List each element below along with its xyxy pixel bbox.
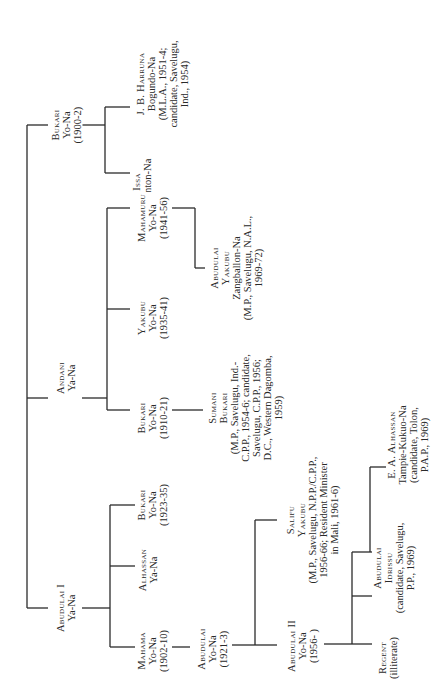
note-line: P.A.P., 1969) xyxy=(419,405,430,484)
genealogy-diagram: Bukari Yo-Na (1900-2) Issa Nanton-Na J. … xyxy=(0,0,436,700)
title: Yo-Na xyxy=(297,620,308,672)
note-line: (M.P., Savelugu, N.P.P./C.P.P., xyxy=(307,457,318,584)
title: Ya-Na xyxy=(66,362,77,394)
note-line: P.P., 1969) xyxy=(405,523,416,614)
person-name: Salifu xyxy=(285,457,296,584)
note-line: Ind., 1954) xyxy=(179,40,190,127)
person-surname: Yakubu xyxy=(296,457,307,584)
title: Yo-Na xyxy=(147,297,158,339)
note-line: (M.P., Savelugu, N.A.L., xyxy=(242,216,253,320)
person-name: Abudulai II xyxy=(286,620,297,672)
title: Yo-Na xyxy=(147,630,158,672)
reign-years: (1910-21) xyxy=(158,397,169,439)
person-name: J. B. Harruna xyxy=(135,40,146,127)
note-line: 1956-66; Resident Minister xyxy=(318,457,329,584)
person-name: Abudulai I xyxy=(55,584,66,632)
person-name: Bukari xyxy=(136,484,147,526)
title: Ya-Na xyxy=(66,584,77,632)
note-line: D.C., Western Dagomba, xyxy=(262,354,273,462)
person-surname: Bukari xyxy=(218,354,229,462)
title: Yo-Na xyxy=(147,194,158,242)
title: Yo-Na xyxy=(207,628,218,669)
person-name: Bukari xyxy=(136,397,147,439)
note-line: (candidate, Savelugu, xyxy=(394,523,405,614)
reign-years: (1923-35) xyxy=(158,484,169,526)
reign-years: (1935-41) xyxy=(158,297,169,339)
person-name: Abudulai xyxy=(196,628,207,669)
person-name: E. A. Alhassan xyxy=(386,405,397,484)
note-line: Savelugu, C.P.P., 1956; xyxy=(251,354,262,462)
note-line: (M.L.A., 1951-4; xyxy=(157,40,168,127)
note-line: (M.P., Savelugu, Ind.- xyxy=(229,354,240,462)
note-line: in Mali, 1961-6) xyxy=(329,457,340,584)
reign-years: (1921-3) xyxy=(218,628,229,669)
title: Zangballon-Na xyxy=(231,216,242,320)
note-line: (candidate, Tolon, xyxy=(408,405,419,484)
reign-years: (1902-10) xyxy=(158,630,169,672)
reign-years: (1900-2) xyxy=(72,107,83,144)
title: Yo-Na xyxy=(147,397,158,439)
reign-years: (1956- ) xyxy=(308,620,319,672)
note-line: 1959) xyxy=(273,354,284,462)
title: Bogundo-Na xyxy=(146,40,157,127)
person-name: Alhassan xyxy=(137,549,148,591)
person-surname: Yakubu xyxy=(220,216,231,320)
title: Ya-Na xyxy=(148,549,159,591)
person-name: Regent xyxy=(377,637,388,679)
reign-years: (1941-56) xyxy=(158,194,169,242)
title: Tampie-Kukuo-Na xyxy=(397,405,408,484)
note-line: (illiterate) xyxy=(388,637,399,679)
person-name: Sumani xyxy=(207,354,218,462)
person-name: Bukari xyxy=(50,107,61,144)
person-name: Abudulai xyxy=(209,216,220,320)
person-name: Abudulai xyxy=(372,523,383,614)
person-surname: Idrissu xyxy=(383,523,394,614)
title: Yo-Na xyxy=(61,107,72,144)
title: Yo-Na xyxy=(147,484,158,526)
person-name: Yakubu xyxy=(136,297,147,339)
person-name: Mahama xyxy=(136,630,147,672)
note-line: C.P.P., 1954-6; candidate, xyxy=(240,354,251,462)
note-line: candidate, Savelugu, xyxy=(168,40,179,127)
person-name: Andani xyxy=(55,362,66,394)
note-line: 1969-72) xyxy=(253,216,264,320)
person-name: Mahamuru xyxy=(136,194,147,242)
